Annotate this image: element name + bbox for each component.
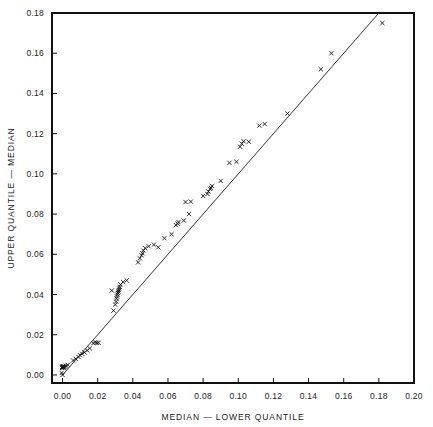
x-tick-label: 0.04	[124, 391, 142, 401]
x-tick-label: 0.10	[229, 391, 247, 401]
x-tick-label: 0.14	[300, 391, 318, 401]
x-tick-label: 0.08	[194, 391, 212, 401]
y-tick-label: 0.10	[26, 169, 44, 179]
plot-background	[0, 0, 433, 427]
y-tick-label: 0.02	[26, 330, 44, 340]
y-axis-title: UPPER QUANTILE — MEDIAN	[6, 127, 16, 268]
x-tick-label: 0.06	[159, 391, 177, 401]
y-tick-label: 0.18	[26, 8, 44, 18]
y-tick-label: 0.16	[26, 48, 44, 58]
x-tick-label: 0.20	[405, 391, 423, 401]
quantile-scatter-plot: 0.000.020.040.060.080.100.120.140.160.18…	[0, 0, 433, 427]
y-tick-label: 0.04	[26, 290, 44, 300]
x-tick-label: 0.00	[54, 391, 72, 401]
x-tick-label: 0.12	[265, 391, 283, 401]
y-tick-label: 0.12	[26, 129, 44, 139]
x-tick-label: 0.18	[370, 391, 388, 401]
y-tick-label: 0.08	[26, 209, 44, 219]
y-tick-label: 0.06	[26, 249, 44, 259]
x-tick-label: 0.02	[89, 391, 107, 401]
y-tick-label: 0.14	[26, 88, 44, 98]
y-tick-label: 0.00	[26, 370, 44, 380]
x-axis-title: MEDIAN — LOWER QUANTILE	[161, 412, 304, 422]
x-tick-label: 0.16	[335, 391, 353, 401]
